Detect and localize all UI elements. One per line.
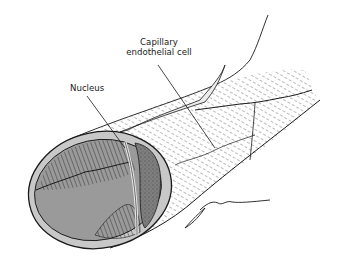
- label-nucleus: Nucleus: [70, 83, 104, 93]
- label-line-1: Capillary: [122, 37, 196, 47]
- label-capillary-endothelial-cell: Capillary endothelial cell: [122, 37, 196, 57]
- capillary-illustration: Capillary endothelial cell Nucleus: [0, 0, 343, 266]
- artist-signature: [185, 200, 270, 228]
- label-line-2: endothelial cell: [122, 47, 196, 57]
